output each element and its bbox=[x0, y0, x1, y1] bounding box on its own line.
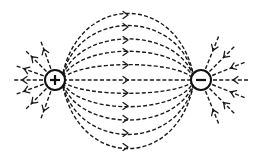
radial-line-positive bbox=[25, 50, 46, 71]
arrow-right-icon bbox=[123, 24, 128, 31]
radial-line-negative bbox=[205, 35, 218, 68]
arrow-right-icon bbox=[123, 130, 128, 137]
radial-line-negative bbox=[212, 62, 245, 75]
field-line bbox=[63, 26, 193, 74]
arrow-outward-icon bbox=[22, 77, 27, 84]
arrow-right-icon bbox=[123, 116, 128, 123]
field-line bbox=[63, 51, 193, 76]
field-line bbox=[63, 83, 193, 107]
negative-charge bbox=[191, 70, 211, 90]
field-line bbox=[63, 82, 193, 94]
field-lines bbox=[63, 13, 193, 148]
radial-line-negative bbox=[212, 84, 245, 97]
field-line bbox=[63, 65, 193, 79]
field-arrows bbox=[123, 12, 128, 151]
electric-field-diagram bbox=[0, 0, 254, 160]
arrow-right-icon bbox=[123, 144, 128, 151]
positive-charge bbox=[45, 70, 65, 90]
arrow-right-icon bbox=[123, 49, 128, 56]
radial-line-negative bbox=[205, 91, 218, 124]
field-line bbox=[63, 13, 193, 73]
arrow-right-icon bbox=[123, 12, 128, 19]
arrow-right-icon bbox=[123, 37, 128, 44]
radial-line-positive bbox=[25, 88, 46, 109]
